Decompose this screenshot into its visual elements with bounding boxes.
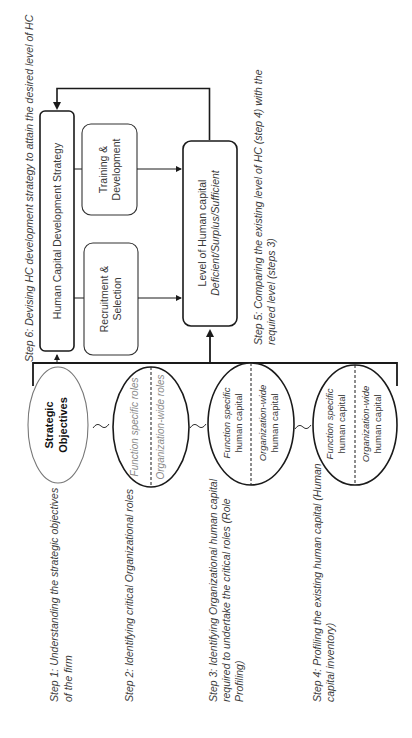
required-org-line1: Organization-wide — [257, 385, 268, 462]
required-function-line2: human capital — [233, 393, 244, 452]
existing-function-line2: human capital — [336, 394, 347, 453]
training-development-box: Training & Development — [82, 124, 137, 215]
roles-organization-wide: Organization-wide roles — [155, 374, 166, 479]
existing-function-line1: Function specific — [324, 388, 335, 459]
step4-label: Step 4: Profiling the existing human cap… — [311, 463, 336, 702]
step3-line3: Profiling) — [233, 661, 245, 702]
required-function-line1: Function specific — [221, 387, 232, 458]
step2-line1: Step 2: Identifying critical Organizatio… — [123, 488, 135, 702]
step1-line1: Step 1: Understanding the strategic obje… — [48, 487, 60, 702]
existing-org-line2: human capital — [372, 394, 383, 453]
step4-line1: Step 4: Profiling the existing human cap… — [311, 463, 323, 702]
recruitment-label-line2: Selection — [111, 277, 123, 320]
step2-label: Step 2: Identifying critical Organizatio… — [123, 488, 135, 702]
step4-line2: capital inventory) — [324, 623, 336, 702]
strategic-line1: Strategic — [43, 401, 55, 448]
hcds-label: Human Capital Development Strategy — [51, 142, 63, 319]
step3-line1: Step 3: Identifying Organizational human… — [207, 478, 219, 702]
ellipse-organizational-roles: Function specific roles Organization-wid… — [113, 367, 189, 487]
hcds-box: Human Capital Development Strategy — [40, 111, 74, 351]
ellipse-required-human-capital: Function specific human capital Organiza… — [208, 363, 294, 485]
training-label-line1: Training & — [97, 146, 109, 193]
ellipse-strategic-objectives: Strategic Objectives — [28, 367, 88, 483]
link-icon-1 — [93, 424, 109, 428]
training-label-line2: Development — [110, 138, 122, 200]
recruitment-label-line1: Recruitment & — [98, 266, 110, 333]
step1-line2: of the firm — [62, 655, 74, 702]
level-of-human-capital-box: Level of Human capital Deficient/Surplus… — [183, 141, 237, 326]
existing-org-line1: Organization-wide — [360, 386, 371, 463]
level-label-line2: Deficient/Surplus/Sufficient — [209, 169, 221, 296]
step3-label: Step 3: Identifying Organizational human… — [207, 478, 245, 702]
ellipse-existing-human-capital: Function specific human capital Organiza… — [313, 365, 397, 485]
roles-function-specific: Function specific roles — [129, 378, 140, 477]
link-icon-2 — [190, 424, 206, 428]
strategic-line2: Objectives — [57, 397, 69, 453]
hc-development-diagram: Step 6: Devising HC development strategy… — [0, 0, 412, 738]
step1-label: Step 1: Understanding the strategic obje… — [48, 487, 74, 702]
recruitment-selection-box: Recruitment & Selection — [84, 243, 138, 355]
link-icon-3 — [295, 425, 311, 429]
step5-label-line2: required level (steps 3) — [265, 238, 277, 345]
step3-line2: required to undertake the critical roles… — [220, 498, 232, 702]
step6-label: Step 6: Devising HC development strategy… — [23, 14, 35, 362]
required-org-line2: human capital — [269, 393, 280, 452]
level-label-line1: Level of Human capital — [196, 180, 208, 287]
step5-label-line1: Step 5: Comparing the existing level of … — [252, 69, 264, 345]
